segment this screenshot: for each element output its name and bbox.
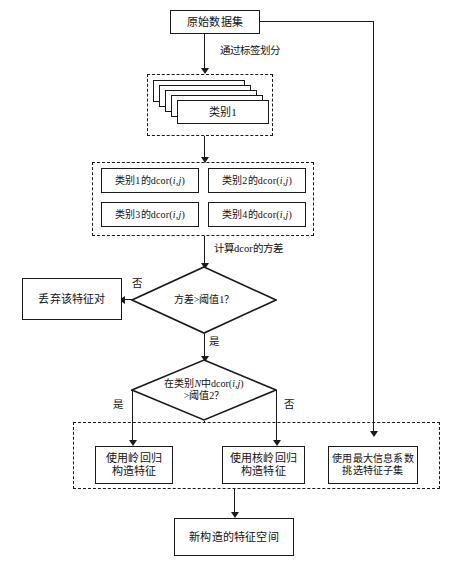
node-dcor-cat4-label: 类别4的dcor(i,j) (222, 209, 292, 221)
node-category-front-label: 类别1 (209, 106, 237, 119)
edge-label-split-by-label: 通过标签划分 (219, 42, 281, 57)
node-dcor-cat4[interactable]: 类别4的dcor(i,j) (208, 202, 306, 227)
node-discard-feature-pair-label: 丢弃该特征对 (38, 293, 105, 306)
node-dcor-cat1-label: 类别1的dcor(i,j) (115, 175, 185, 187)
edge-raw-to-categories (204, 34, 205, 70)
node-raw-dataset[interactable]: 原始数据集 (170, 10, 260, 34)
node-mic-feature-selection-label: 使用最大信息系数 挑选特征子集 (332, 453, 414, 477)
node-dcor-cat2-label: 类别2的dcor(i,j) (222, 175, 292, 187)
node-ridge-regression-label: 使用岭回归 构造特征 (106, 452, 162, 478)
edge-raw-to-mic-vertical (373, 21, 374, 433)
flowchart-canvas: 原始数据集 通过标签划分 类别1 类别1的dcor(i,j) 类别2的dcor(… (0, 0, 459, 574)
edge-label-dcor-yes: 是 (112, 396, 124, 411)
edge-dcor-to-variance-decision (204, 236, 205, 266)
node-new-feature-space-label: 新构造的特征空间 (189, 531, 279, 544)
node-kernel-ridge-regression[interactable]: 使用核岭回归 构造特征 (222, 446, 305, 484)
edge-label-variance-yes: 是 (208, 333, 220, 348)
edge-dcor-bottom-tip (204, 421, 205, 423)
node-dcor-cat2[interactable]: 类别2的dcor(i,j) (208, 168, 306, 193)
edge-label-compute-dcor-variance: 计算dcor的方差 (213, 240, 284, 255)
arrow-raw-to-categories (201, 68, 209, 74)
decision-dcor-threshold[interactable]: 在类别N中dcor(i,j) >阈值2？ (131, 359, 277, 421)
node-dcor-cat3[interactable]: 类别3的dcor(i,j) (101, 202, 199, 227)
edge-label-dcor-no: 否 (283, 396, 295, 411)
node-raw-dataset-label: 原始数据集 (187, 16, 243, 29)
edge-raw-to-mic-horizontal (260, 21, 374, 22)
node-dcor-cat3-label: 类别3的dcor(i,j) (115, 209, 185, 221)
node-ridge-regression[interactable]: 使用岭回归 构造特征 (95, 446, 173, 484)
node-dcor-cat1[interactable]: 类别1的dcor(i,j) (101, 168, 199, 193)
node-new-feature-space[interactable]: 新构造的特征空间 (174, 518, 294, 556)
arrow-raw-to-mic (370, 431, 378, 437)
node-kernel-ridge-regression-label: 使用核岭回归 构造特征 (230, 452, 297, 478)
decision-variance-shape (131, 266, 277, 334)
node-discard-feature-pair[interactable]: 丢弃该特征对 (22, 278, 122, 320)
decision-variance-threshold[interactable]: 方差>阈值1？ (131, 266, 277, 334)
edge-label-variance-no: 否 (131, 275, 143, 290)
node-category-front[interactable]: 类别1 (177, 100, 269, 124)
arrow-categories-to-dcor (201, 157, 209, 163)
decision-dcor-shape (131, 359, 277, 421)
node-mic-feature-selection[interactable]: 使用最大信息系数 挑选特征子集 (328, 446, 418, 484)
